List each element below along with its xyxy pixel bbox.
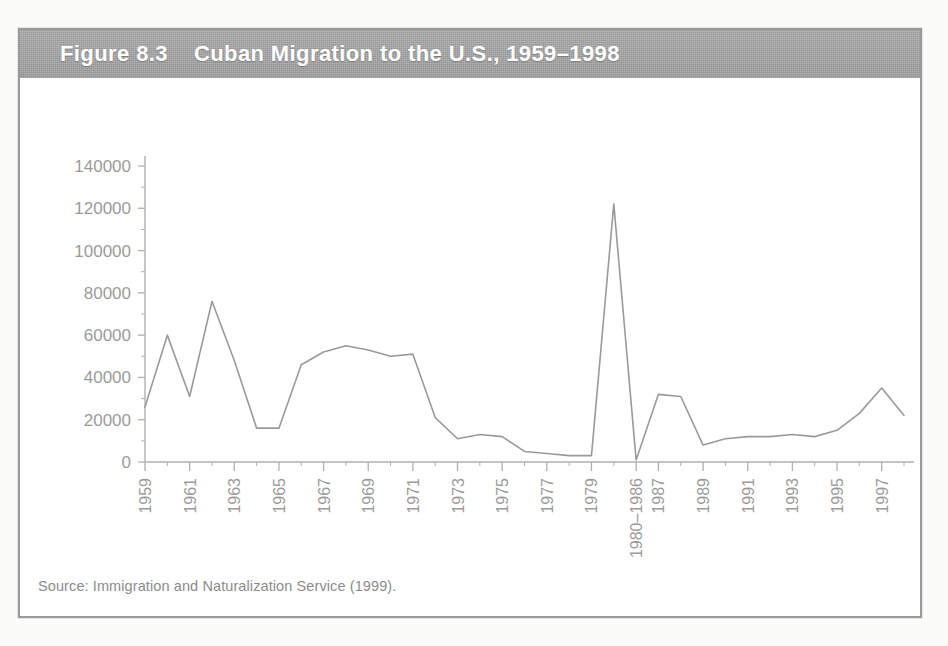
y-axis: 020000400006000080000100000120000140000 <box>74 156 145 472</box>
x-axis: 1959196119631965196719691971197319751977… <box>137 462 914 558</box>
figure-frame: Figure 8.3Cuban Migration to the U.S., 1… <box>18 28 922 618</box>
chart-plot-area: 020000400006000080000100000120000140000 … <box>20 78 920 616</box>
x-axis-tick-label: 1967 <box>316 478 333 514</box>
line-chart: 020000400006000080000100000120000140000 … <box>20 78 920 616</box>
y-axis-tick-label: 20000 <box>84 411 131 430</box>
y-axis-tick-label: 140000 <box>74 157 131 176</box>
x-axis-tick-label: 1989 <box>695 478 712 514</box>
figure-number: Figure 8.3 <box>60 41 168 66</box>
x-axis-tick-label: 1980–1986 <box>628 478 645 558</box>
x-axis-tick-label: 1961 <box>182 478 199 514</box>
y-axis-tick-label: 120000 <box>74 199 131 218</box>
y-axis-tick-label: 60000 <box>84 326 131 345</box>
figure-title-text: Cuban Migration to the U.S., 1959–1998 <box>194 41 620 66</box>
y-axis-tick-label: 100000 <box>74 242 131 261</box>
x-axis-tick-label: 1969 <box>360 478 377 514</box>
x-axis-tick-label: 1997 <box>874 478 891 514</box>
y-axis-tick-label: 80000 <box>84 284 131 303</box>
x-axis-tick-label: 1993 <box>784 478 801 514</box>
x-axis-tick-label: 1963 <box>226 478 243 514</box>
source-note: Source: Immigration and Naturalization S… <box>38 578 396 594</box>
x-axis-tick-label: 1975 <box>494 478 511 514</box>
x-axis-tick-label: 1987 <box>650 478 667 514</box>
x-axis-tick-label: 1959 <box>137 478 154 514</box>
x-axis-tick-label: 1991 <box>740 478 757 514</box>
x-axis-tick-label: 1973 <box>450 478 467 514</box>
x-axis-tick-label: 1977 <box>539 478 556 514</box>
x-axis-tick-label: 1971 <box>405 478 422 514</box>
figure-page: Figure 8.3Cuban Migration to the U.S., 1… <box>0 0 948 646</box>
data-series-cuban-migration <box>145 204 904 460</box>
y-axis-tick-label: 40000 <box>84 368 131 387</box>
x-axis-tick-label: 1979 <box>583 478 600 514</box>
series-line <box>145 204 904 460</box>
y-axis-tick-label: 0 <box>122 453 131 472</box>
x-axis-tick-label: 1965 <box>271 478 288 514</box>
x-axis-tick-label: 1995 <box>829 478 846 514</box>
figure-title-banner: Figure 8.3Cuban Migration to the U.S., 1… <box>20 30 920 78</box>
figure-title: Figure 8.3Cuban Migration to the U.S., 1… <box>60 41 620 67</box>
